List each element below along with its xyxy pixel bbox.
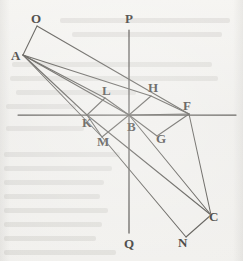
- point-label-Q: Q: [124, 237, 134, 250]
- point-label-B: B: [127, 120, 136, 133]
- segment-N-C: [186, 215, 211, 237]
- segment-B-C: [129, 115, 211, 215]
- point-label-O: O: [31, 12, 41, 25]
- segment-L-B: [105, 98, 129, 115]
- geometry-figure-canvas: OAPLHFKBGMCNQ: [0, 0, 243, 261]
- segment-A-B: [23, 55, 129, 115]
- point-label-N: N: [178, 236, 187, 249]
- segment-A-L: [23, 55, 105, 98]
- segment-O-F: [37, 26, 189, 114]
- point-label-P: P: [125, 12, 133, 25]
- point-label-G: G: [156, 132, 166, 145]
- segment-A-K: [23, 55, 87, 115]
- segment-H-B: [129, 96, 151, 115]
- point-label-F: F: [183, 99, 191, 112]
- point-label-M: M: [97, 135, 109, 148]
- point-label-A: A: [11, 49, 20, 62]
- point-label-K: K: [82, 116, 92, 129]
- construction-lines: [23, 26, 211, 237]
- point-label-C: C: [209, 210, 218, 223]
- point-label-H: H: [148, 81, 158, 94]
- segment-O-A: [23, 26, 37, 55]
- point-label-L: L: [102, 84, 111, 97]
- geometry-diagram-svg: [0, 0, 243, 261]
- segment-L-K: [87, 98, 105, 115]
- segment-M-N: [102, 137, 186, 237]
